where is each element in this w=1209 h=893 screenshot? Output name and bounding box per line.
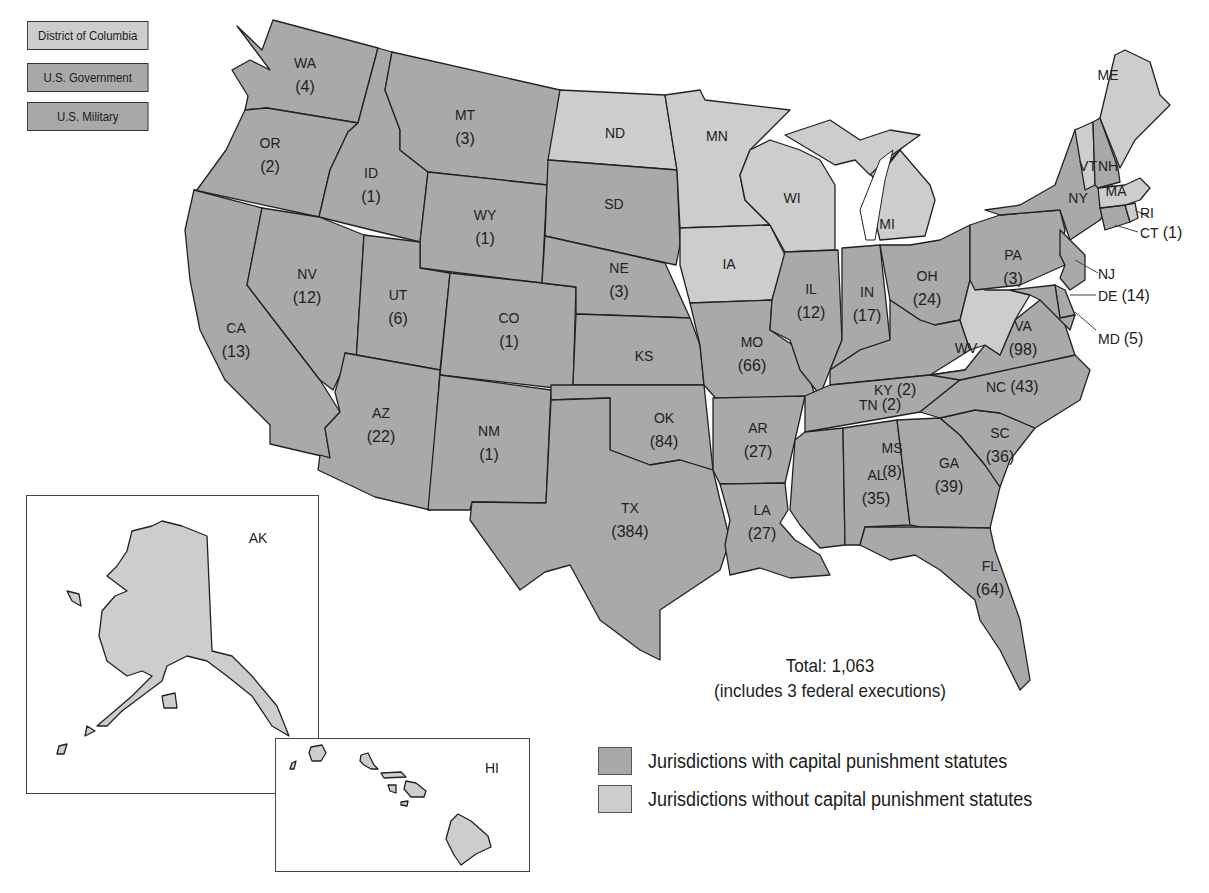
state-ms bbox=[790, 428, 845, 548]
label-ar: AR(27) bbox=[744, 420, 772, 460]
label-md: MD(5) bbox=[1098, 330, 1143, 348]
label-nc: NC(43) bbox=[986, 378, 1039, 396]
hi-kahoolawe bbox=[401, 801, 408, 806]
label-ny: NY bbox=[1068, 190, 1087, 207]
label-ak: AK bbox=[249, 530, 268, 547]
label-la: LA(27) bbox=[748, 502, 776, 542]
label-mt: MT(3) bbox=[455, 107, 475, 147]
label-id: ID(1) bbox=[361, 165, 381, 205]
label-co: CO(1) bbox=[499, 310, 520, 350]
legend-item-without: Jurisdictions without capital punishment… bbox=[598, 780, 1075, 818]
label-tx: TX(384) bbox=[611, 500, 648, 540]
label-az: AZ(22) bbox=[367, 405, 395, 445]
label-de: DE(14) bbox=[1098, 287, 1150, 305]
legend-label-with: Jurisdictions with capital punishment st… bbox=[648, 750, 1007, 773]
label-or: OR(2) bbox=[260, 135, 281, 175]
ak-islands-3 bbox=[162, 693, 177, 708]
label-va: VA(98) bbox=[1009, 318, 1037, 358]
hi-oahu bbox=[360, 753, 378, 769]
label-fl: FL(64) bbox=[976, 558, 1004, 598]
ak-islands-2 bbox=[57, 744, 67, 754]
legend-swatch-with bbox=[598, 747, 632, 775]
label-ct: CT(1) bbox=[1140, 224, 1182, 242]
label-vt: VT bbox=[1079, 158, 1097, 175]
label-wi: WI bbox=[783, 190, 800, 207]
hi-big-island bbox=[446, 814, 491, 865]
label-ut: UT(6) bbox=[388, 287, 408, 327]
hi-maui bbox=[404, 781, 426, 797]
total-line: Total: 1,063 bbox=[659, 653, 1001, 678]
label-ks: KS bbox=[635, 348, 654, 365]
hawaii-inset bbox=[275, 738, 530, 872]
label-ne: NE(3) bbox=[609, 260, 629, 300]
label-ca: CA(13) bbox=[222, 320, 250, 360]
label-hi: HI bbox=[485, 760, 499, 777]
label-wy: WY(1) bbox=[474, 207, 497, 247]
label-ri: RI bbox=[1140, 205, 1154, 221]
label-nj: NJ bbox=[1098, 266, 1115, 282]
label-sc: SC(36) bbox=[986, 425, 1014, 465]
label-mn: MN bbox=[706, 128, 728, 145]
legend-label-without: Jurisdictions without capital punishment… bbox=[648, 788, 1032, 811]
label-ia: IA bbox=[722, 256, 735, 273]
legend: Jurisdictions with capital punishment st… bbox=[598, 742, 1075, 818]
label-ga: GA(39) bbox=[935, 455, 963, 495]
hi-molokai bbox=[381, 772, 406, 778]
state-ak bbox=[97, 521, 289, 736]
legend-item-with: Jurisdictions with capital punishment st… bbox=[598, 742, 1075, 780]
label-mi: MI bbox=[879, 216, 895, 233]
hi-lanai bbox=[388, 785, 396, 793]
total-summary: Total: 1,063 (includes 3 federal executi… bbox=[659, 653, 1001, 703]
label-ma: MA bbox=[1106, 183, 1127, 200]
label-nh: NH bbox=[1098, 158, 1118, 175]
label-il: IL(12) bbox=[797, 281, 825, 321]
legend-swatch-without bbox=[598, 785, 632, 813]
label-al: AL(35) bbox=[862, 467, 890, 507]
label-tn: TN(2) bbox=[859, 396, 901, 414]
label-oh: OH(24) bbox=[913, 268, 941, 308]
ak-islands bbox=[85, 726, 95, 736]
total-note: (includes 3 federal executions) bbox=[659, 678, 1001, 703]
ak-islands-4 bbox=[67, 591, 81, 606]
hi-kauai bbox=[309, 745, 326, 761]
label-wa: WA(4) bbox=[294, 55, 316, 95]
label-wv-text: WV bbox=[955, 340, 978, 357]
label-me: ME bbox=[1098, 67, 1119, 84]
hi-niihau bbox=[290, 761, 296, 769]
label-mo: MO(66) bbox=[738, 334, 766, 374]
label-in: IN(17) bbox=[853, 284, 881, 324]
label-pa: PA(3) bbox=[1003, 247, 1023, 287]
label-sd: SD bbox=[604, 196, 623, 213]
label-nv: NV(12) bbox=[293, 266, 321, 306]
label-nd: ND bbox=[605, 125, 625, 142]
label-ok: OK(84) bbox=[650, 410, 678, 450]
label-nm: NM(1) bbox=[478, 423, 500, 463]
